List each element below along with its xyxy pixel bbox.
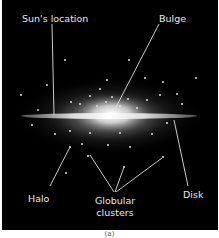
galaxy-diagram-panel: Sun's location Bulge Halo Globular clust… <box>2 0 218 230</box>
disk-plane <box>21 113 197 119</box>
sun-location-label: Sun's location <box>22 13 88 24</box>
bulge-label: Bulge <box>159 13 186 24</box>
globular-clusters-label-line2: clusters <box>94 207 136 218</box>
halo-label: Halo <box>28 193 49 204</box>
figure-caption: (a) <box>0 231 219 238</box>
globular-clusters-label-line1: Globular <box>92 195 138 206</box>
disk-label: Disk <box>183 189 203 200</box>
